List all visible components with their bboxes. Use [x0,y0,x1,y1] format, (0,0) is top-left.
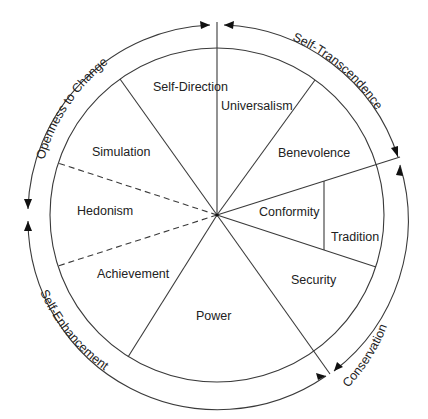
label-power: Power [196,309,231,323]
arrowhead-icon [391,146,398,157]
divider-achievement-power [128,215,217,357]
label-universalism: Universalism [221,99,293,113]
label-self-direction: Self-Direction [153,80,228,94]
label-simulation: Simulation [92,145,150,159]
label-tradition: Tradition [331,230,379,244]
divider-security-power [217,215,330,374]
label-security: Security [291,273,337,287]
label-achievement: Achievement [97,267,170,281]
arrowhead-icon [24,199,32,209]
label-benevolence: Benevolence [278,146,350,160]
arrowhead-icon [200,21,210,29]
outer-arc-self-enhancement [28,221,326,410]
label-conformity: Conformity [259,205,320,219]
label-conservation: Conservation [340,322,390,390]
label-hedonism: Hedonism [77,204,133,218]
center-point [216,214,219,217]
arrowhead-icon [334,362,343,371]
arrowhead-icon [224,21,234,29]
values-circle-diagram: Self-Direction Universalism Benevolence … [0,0,428,419]
divider-hedonism-achievement [58,215,217,266]
label-self-enhancement: Self-Enhancement [37,287,111,373]
arrowhead-icon [24,221,32,231]
